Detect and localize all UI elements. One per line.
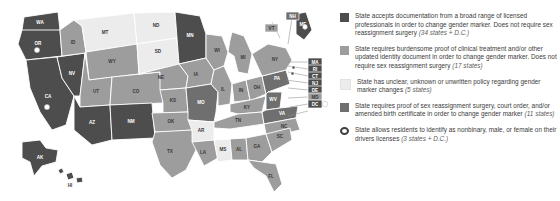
state-HI[interactable] [58,168,64,174]
callout-label-VT: VT [269,26,275,31]
state-HI-3[interactable] [76,177,83,183]
leader-DE [288,97,308,98]
state-label-MT: MT [102,30,109,35]
legend-text-unclear-policy: State has unclear, unknown or unwritten … [357,78,560,95]
legend-count-0: (34 states + D.C.) [419,29,470,36]
legend-count-3: (11 states) [525,110,555,117]
leader-NJ [288,88,308,90]
state-label-KS: KS [170,98,176,103]
legend-item-nonbinary-license[interactable]: State allows residents to identify as no… [340,126,560,143]
legend-desc-2: State has unclear, unknown or unwritten … [357,78,541,94]
state-label-OR: OR [35,41,43,46]
state-label-WY: WY [108,59,115,64]
gender-marker-policy-map-figure: WA OR CA NV ID MT WY UT AZ NM CO ND SD N… [0,0,560,201]
state-label-NE: NE [158,75,164,80]
state-label-IA: IA [194,72,199,77]
callout-label-NH: NH [289,14,296,19]
legend-text-broad-range: State accepts documentation from a broad… [355,12,560,38]
legend-ring-icon [340,127,349,135]
leader-NH-top [288,18,292,44]
map-sliver-RI [291,72,294,75]
state-label-MO: MO [197,100,205,105]
state-label-NV: NV [69,71,76,76]
state-MI[interactable] [228,32,252,74]
legend-count-1: (17 states) [452,62,482,69]
leader-MA [288,66,308,69]
marker-OR[interactable] [34,47,39,52]
map-legend: State accepts documentation from a broad… [340,12,560,150]
state-label-WV: WV [269,97,277,102]
state-label-AR: AR [198,128,205,133]
state-HI-2[interactable] [66,172,74,180]
state-label-TN: TN [235,118,242,123]
state-label-ND: ND [153,23,160,28]
state-label-PA: PA [274,76,281,81]
state-label-FL: FL [268,174,274,179]
state-label-NM: NM [127,119,134,124]
state-label-MS: MS [220,147,227,152]
legend-item-surgery-required[interactable]: State requires proof of sex reassignment… [340,102,560,119]
state-label-WI: WI [214,48,220,53]
state-label-AL: AL [236,147,242,152]
callout-label-RI: RI [313,67,318,72]
us-map-svg: WA OR CA NV ID MT WY UT AZ NM CO ND SD N… [0,0,340,201]
legend-swatch-dark [340,13,349,22]
state-label-NY: NY [272,57,278,62]
state-label-UT: UT [93,89,99,94]
callout-label-MA: MA [311,60,319,65]
legend-desc-3: State requires proof of sex reassignment… [355,102,550,118]
legend-swatch-mid-dark [340,103,349,112]
state-label-WA: WA [36,20,44,25]
state-label-IL: IL [221,87,225,92]
state-label-NC: NC [281,124,288,129]
marker-CA[interactable] [44,104,49,109]
state-FL[interactable] [248,160,282,192]
legend-swatch-light [340,79,351,90]
us-map-panel: WA OR CA NV ID MT WY UT AZ NM CO ND SD N… [0,0,340,201]
state-TX[interactable] [152,130,196,178]
state-label-AK: AK [37,155,44,160]
callout-label-CT: CT [312,74,318,79]
legend-text-surgery-required: State requires proof of sex reassignment… [355,102,560,119]
callout-label-DC: DC [312,102,319,107]
state-label-GA: GA [254,144,262,149]
legend-desc-4: State allows residents to identify as no… [355,126,556,142]
legend-count-2: (5 states) [405,86,432,93]
callout-label-DE: DE [312,88,318,93]
legend-text-nonbinary-license: State allows residents to identify as no… [355,126,560,143]
legend-count-4: (3 states + D.C.) [401,135,448,142]
state-label-HI: HI [68,183,73,188]
state-label-MI: MI [240,55,245,60]
state-label-ID: ID [71,40,76,45]
marker-DC[interactable] [322,101,328,107]
legend-item-unclear-policy[interactable]: State has unclear, unknown or unwritten … [340,78,560,95]
marker-ME[interactable] [303,25,308,30]
state-label-AZ: AZ [89,120,95,125]
leader-MD [290,104,308,107]
state-label-SC: SC [277,134,284,139]
legend-swatch-medium [340,46,349,55]
legend-item-broad-range[interactable]: State accepts documentation from a broad… [340,12,560,38]
callout-label-NJ: NJ [312,81,318,86]
legend-item-burdensome-proof[interactable]: State requires burdensome proof of clini… [340,45,560,71]
state-label-LA: LA [200,150,207,155]
state-label-TX: TX [167,149,174,154]
legend-text-burdensome-proof: State requires burdensome proof of clini… [355,45,560,71]
state-label-CA: CA [45,94,52,99]
state-label-OK: OK [168,119,176,124]
state-label-OH: OH [254,85,262,90]
state-label-VA: VA [279,111,286,116]
state-label-MN: MN [186,33,194,38]
state-label-KY: KY [244,105,250,110]
state-label-SD: SD [155,49,162,54]
callout-label-MD: MD [311,95,319,100]
state-label-CO: CO [133,89,140,94]
map-sliver-MA [292,66,295,69]
state-label-IN: IN [239,88,244,93]
